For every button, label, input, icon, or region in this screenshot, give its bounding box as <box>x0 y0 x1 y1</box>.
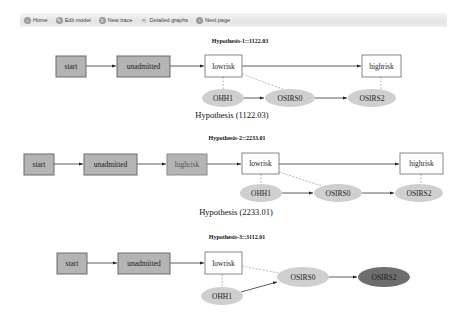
obs-node-ohh1[interactable]: OHH1 <box>202 89 244 107</box>
svg-text:OSIRS2: OSIRS2 <box>406 189 431 198</box>
state-node-start[interactable]: start <box>57 253 87 274</box>
svg-text:lowrisk: lowrisk <box>212 62 235 71</box>
state-node-lowrisk[interactable]: lowrisk <box>242 153 279 174</box>
state-node-unadmitted[interactable]: unadmitted <box>84 154 137 175</box>
state-node-unadmitted[interactable]: unadmitted <box>118 253 170 274</box>
hypothesis-1: Hypothesis-1::1122.03 start unadmitted l… <box>56 38 401 120</box>
svg-text:OSIRS0: OSIRS0 <box>290 273 315 282</box>
state-node-start[interactable]: start <box>24 154 54 175</box>
state-node-start[interactable]: start <box>56 56 86 77</box>
state-node-lowrisk[interactable]: lowrisk <box>205 55 242 77</box>
hypothesis-3: Hypothesis-3::3112.01 start unadmitted l… <box>57 234 410 305</box>
svg-text:highrisk: highrisk <box>409 159 434 168</box>
hypothesis-2: Hypothesis-2::2233.01 start unadmitted h… <box>24 135 443 217</box>
svg-text:highrisk: highrisk <box>369 62 394 71</box>
svg-text:OSIRS2: OSIRS2 <box>371 273 396 282</box>
svg-text:OSIRS0: OSIRS0 <box>325 189 350 198</box>
svg-text:OHH1: OHH1 <box>212 292 232 301</box>
svg-text:unadmitted: unadmitted <box>127 62 161 71</box>
hypothesis-2-title: Hypothesis-2::2233.01 <box>209 135 266 141</box>
state-node-lowrisk[interactable]: lowrisk <box>205 252 242 274</box>
obs-node-osirs2-highlighted[interactable]: OSIRS2 <box>358 267 410 287</box>
obs-node-osirs2[interactable]: OSIRS2 <box>395 184 443 202</box>
svg-text:start: start <box>65 62 79 71</box>
svg-text:lowrisk: lowrisk <box>212 259 235 268</box>
svg-text:highrisk: highrisk <box>175 160 200 169</box>
obs-node-osirs2[interactable]: OSIRS2 <box>348 89 396 107</box>
state-node-unadmitted[interactable]: unadmitted <box>117 56 170 77</box>
hypothesis-1-caption: Hypothesis (1122.03) <box>195 110 269 120</box>
svg-text:OHH1: OHH1 <box>251 189 271 198</box>
hypothesis-graphs: Hypothesis-1::1122.03 start unadmitted l… <box>0 0 461 318</box>
obs-node-ohh1[interactable]: OHH1 <box>201 287 243 305</box>
state-node-highrisk-2[interactable]: highrisk <box>400 153 443 174</box>
obs-node-osirs0[interactable]: OSIRS0 <box>265 89 315 107</box>
hypothesis-1-title: Hypothesis-1::1122.03 <box>212 38 269 44</box>
svg-text:OHH1: OHH1 <box>213 94 233 103</box>
obs-node-osirs0[interactable]: OSIRS0 <box>314 184 362 202</box>
svg-text:unadmitted: unadmitted <box>94 160 128 169</box>
hypothesis-3-title: Hypothesis-3::3112.01 <box>209 234 266 240</box>
svg-text:lowrisk: lowrisk <box>249 159 272 168</box>
state-node-highrisk[interactable]: highrisk <box>362 55 401 77</box>
svg-text:start: start <box>66 259 80 268</box>
state-node-highrisk-1[interactable]: highrisk <box>167 154 207 175</box>
svg-text:unadmitted: unadmitted <box>127 259 161 268</box>
obs-node-ohh1[interactable]: OHH1 <box>240 184 282 202</box>
obs-node-osirs0[interactable]: OSIRS0 <box>277 267 329 287</box>
svg-text:OSIRS2: OSIRS2 <box>359 94 384 103</box>
hypothesis-2-caption: Hypothesis (2233.01) <box>199 207 273 217</box>
svg-text:OSIRS0: OSIRS0 <box>277 94 302 103</box>
svg-text:start: start <box>33 160 47 169</box>
